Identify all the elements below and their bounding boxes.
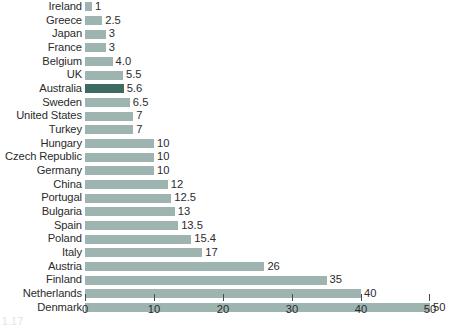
bar	[85, 166, 154, 175]
bar-track: 4.0	[85, 55, 465, 69]
chart-row: Ireland1	[0, 0, 465, 14]
bar-value-label: 1	[92, 0, 101, 14]
axis-tick	[85, 294, 86, 301]
bar	[85, 30, 106, 39]
bar-value-label: 5.6	[124, 82, 143, 96]
bar-value-label: 15.4	[191, 232, 216, 246]
chart-row: Turkey7	[0, 123, 465, 137]
bar-value-label: 5.5	[123, 68, 142, 82]
bar	[85, 71, 123, 80]
bar-track: 6.5	[85, 96, 465, 110]
chart-row: Italy17	[0, 246, 465, 260]
bar	[85, 221, 178, 230]
axis-tick-label: 0	[82, 303, 88, 315]
chart-row: Czech Republic10	[0, 150, 465, 164]
category-label: Hungary	[40, 137, 82, 151]
category-label: United States	[16, 109, 82, 123]
bar-track: 26	[85, 260, 465, 274]
axis-tick-label: 20	[217, 303, 229, 315]
bar	[85, 57, 113, 66]
bar-track: 35	[85, 273, 465, 287]
bar-track: 5.6	[85, 82, 465, 96]
chart-row: Hungary10	[0, 137, 465, 151]
bar	[85, 235, 191, 244]
category-label: Austria	[48, 260, 82, 274]
category-label: Bulgaria	[42, 205, 82, 219]
bar-value-label: 4.0	[113, 55, 132, 69]
bar	[85, 125, 133, 134]
bar-value-label: 10	[154, 164, 169, 178]
chart-row: Bulgaria13	[0, 205, 465, 219]
bar-value-label: 13.5	[178, 219, 203, 233]
chart-row: United States7	[0, 109, 465, 123]
category-label: Netherlands	[23, 287, 82, 301]
chart-row: Poland15.4	[0, 232, 465, 246]
category-label: Sweden	[42, 96, 82, 110]
chart-row: Australia5.6	[0, 82, 465, 96]
bar-value-label: 6.5	[130, 96, 149, 110]
bar-value-label: 3	[106, 41, 115, 55]
category-label: Czech Republic	[5, 150, 82, 164]
category-label: Italy	[62, 246, 82, 260]
bar-track: 12.5	[85, 191, 465, 205]
axis-tick	[292, 294, 293, 301]
chart-row: UK5.5	[0, 68, 465, 82]
bar-value-label: 7	[133, 123, 142, 137]
bar-track: 12	[85, 178, 465, 192]
category-label: Finland	[46, 273, 82, 287]
chart-row: Greece2.5	[0, 14, 465, 28]
category-label: Australia	[39, 82, 82, 96]
category-label: Poland	[48, 232, 82, 246]
chart-row: Germany10	[0, 164, 465, 178]
bar-track: 3	[85, 27, 465, 41]
chart-row: Sweden6.5	[0, 96, 465, 110]
bar	[85, 180, 168, 189]
category-label: Denmark	[37, 301, 82, 315]
bar-value-label: 7	[133, 109, 142, 123]
axis-tick-label: 40	[355, 303, 367, 315]
bar-track: 10	[85, 137, 465, 151]
bar-value-label: 12	[168, 178, 183, 192]
bar-value-label: 3	[106, 27, 115, 41]
bar	[85, 139, 154, 148]
category-label: France	[48, 41, 82, 55]
bar	[85, 43, 106, 52]
chart-row: France3	[0, 41, 465, 55]
bar-track: 1	[85, 0, 465, 14]
axis-tick-label: 30	[286, 303, 298, 315]
chart-row: Portugal12.5	[0, 191, 465, 205]
axis-tick	[223, 294, 224, 301]
bar-track: 10	[85, 164, 465, 178]
bar-track: 13	[85, 205, 465, 219]
bar-highlighted	[85, 84, 124, 93]
chart-rows: Ireland1Greece2.5Japan3France3Belgium4.0…	[0, 0, 465, 314]
axis-tick	[154, 294, 155, 301]
bar	[85, 112, 133, 121]
bar-value-label: 35	[327, 273, 342, 287]
page-artifact: 1.17	[2, 316, 23, 327]
bar	[85, 262, 264, 271]
chart-row: Belgium4.0	[0, 55, 465, 69]
chart-row: Spain13.5	[0, 219, 465, 233]
bar-value-label: 10	[154, 150, 169, 164]
bar-value-label: 10	[154, 137, 169, 151]
axis-tick	[361, 294, 362, 301]
category-label: Turkey	[49, 123, 82, 137]
bar-track: 40	[85, 287, 465, 301]
category-label: Spain	[54, 219, 82, 233]
bar	[85, 2, 92, 11]
category-label: Portugal	[41, 191, 82, 205]
axis-tick-label: 10	[148, 303, 160, 315]
bar	[85, 207, 175, 216]
bar	[85, 153, 154, 162]
chart-row: Finland35	[0, 273, 465, 287]
bar-track: 2.5	[85, 14, 465, 28]
bar-track: 7	[85, 123, 465, 137]
category-label: China	[53, 178, 82, 192]
axis-tick-label: 50	[424, 303, 436, 315]
bar-track: 17	[85, 246, 465, 260]
bar	[85, 98, 130, 107]
bar-chart: Ireland1Greece2.5Japan3France3Belgium4.0…	[0, 0, 465, 328]
bar-value-label: 26	[264, 260, 279, 274]
bar-track: 13.5	[85, 219, 465, 233]
